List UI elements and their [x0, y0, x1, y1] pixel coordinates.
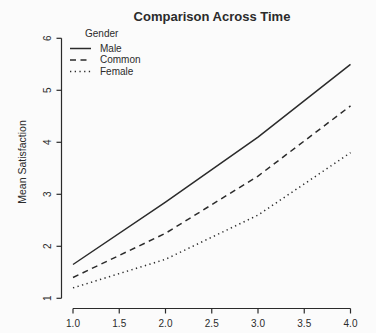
legend-item-female: Female: [70, 66, 134, 77]
y-tick-label: 3: [42, 191, 53, 197]
legend-item-male: Male: [70, 43, 122, 54]
legend-label: Male: [100, 43, 122, 54]
y-axis-label: Mean Satisfaction: [16, 120, 28, 204]
y-tick-label: 2: [42, 243, 53, 249]
x-tick-label: 2.0: [159, 318, 173, 329]
legend-label: Common: [100, 54, 141, 65]
chart-title: Comparison Across Time: [134, 9, 291, 24]
legend-title: Gender: [85, 28, 119, 39]
x-tick-label: 1.5: [112, 318, 126, 329]
y-tick-label: 1: [42, 295, 53, 301]
y-tick-label: 6: [42, 35, 53, 41]
y-tick-label: 5: [42, 87, 53, 93]
series-line-common: [73, 106, 351, 278]
x-tick-label: 3.5: [297, 318, 311, 329]
series-lines: [73, 64, 351, 288]
y-tick-label: 4: [42, 139, 53, 145]
x-tick-label: 3.0: [251, 318, 265, 329]
series-line-female: [73, 153, 351, 288]
line-chart-canvas: Comparison Across Time Mean Satisfaction…: [0, 0, 376, 333]
axes: 1234561.01.52.02.53.03.54.0: [42, 35, 358, 329]
chart-comparison-across-time: Comparison Across Time Mean Satisfaction…: [0, 0, 376, 333]
x-tick-label: 1.0: [66, 318, 80, 329]
legend-item-common: Common: [70, 54, 141, 65]
x-tick-label: 4.0: [344, 318, 358, 329]
legend: GenderMaleCommonFemale: [70, 28, 141, 77]
x-tick-label: 2.5: [205, 318, 219, 329]
legend-label: Female: [100, 66, 134, 77]
series-line-male: [73, 64, 351, 264]
